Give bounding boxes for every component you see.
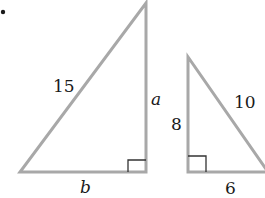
- triangles-figure: 15 a b 8 10 6: [0, 0, 265, 198]
- bullet-marker: [1, 10, 5, 14]
- large-vertical-leg-label: a: [151, 89, 161, 109]
- large-horizontal-leg-label: b: [80, 177, 91, 197]
- small-vertical-leg-label: 8: [171, 114, 182, 134]
- large-triangle-outline: [20, 3, 146, 172]
- small-hypotenuse-label: 10: [234, 92, 256, 112]
- small-triangle-outline: [188, 57, 265, 172]
- small-right-angle-marker: [188, 156, 206, 172]
- small-right-triangle: 8 10 6: [171, 57, 265, 198]
- large-right-triangle: 15 a b: [20, 3, 161, 197]
- large-hypotenuse-label: 15: [53, 76, 75, 96]
- large-right-angle-marker: [128, 160, 146, 172]
- small-horizontal-leg-label: 6: [225, 178, 236, 198]
